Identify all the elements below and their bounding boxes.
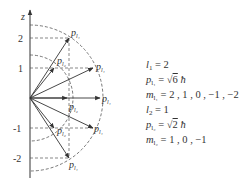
tick-2: 2: [18, 33, 23, 44]
vector-l2-m1: [30, 68, 54, 98]
vector-l2-mneg1: [30, 98, 54, 128]
z-axis-label: z: [20, 11, 25, 22]
label-p-l2: pl₂: [56, 125, 66, 137]
label-p-l1: pl₁: [93, 123, 103, 135]
label-p-l1: pl₁: [95, 61, 105, 73]
tick-neg2: -2: [13, 153, 21, 164]
label-p-l2: pl₂: [56, 55, 66, 67]
label-p-l1: pl₁: [70, 27, 80, 39]
label-p-l1: pl₁: [68, 159, 78, 171]
tick-neg1: -1: [13, 123, 21, 134]
equation-m-l2: ml₂ = 1 , 0 , −1: [146, 132, 207, 152]
label-p-l2: pl₂: [68, 101, 78, 113]
tick-1: 1: [18, 63, 23, 74]
angular-momentum-diagram: z 2 1 -1 -2 pl₁ pl₁ pl₁ pl₁ pl₁ pl₂ pl₂ …: [0, 0, 140, 185]
label-p-l1: pl₁: [101, 93, 111, 105]
